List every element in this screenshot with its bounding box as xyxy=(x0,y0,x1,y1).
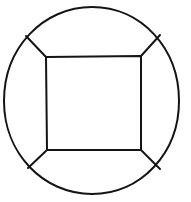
geometric-figure xyxy=(0,0,191,202)
figure-background xyxy=(0,0,191,202)
figure-canvas xyxy=(0,0,191,202)
